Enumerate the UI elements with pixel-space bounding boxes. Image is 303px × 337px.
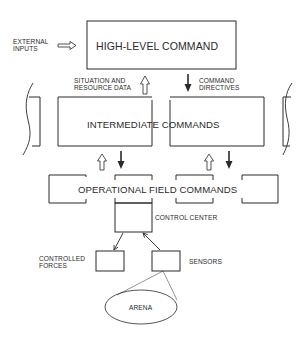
sensors-label: SENSORS: [189, 258, 222, 265]
command-directives-label: COMMAND DIRECTIVES: [199, 77, 240, 92]
external-inputs-line2: INPUTS: [13, 45, 49, 52]
command-directives-line1: COMMAND: [199, 77, 240, 84]
arena-label: ARENA: [129, 304, 152, 311]
situation-data-line2: RESOURCE DATA: [74, 84, 131, 91]
external-inputs-line1: EXTERNAL: [13, 38, 49, 45]
left-directive-down-arrow-icon: [118, 151, 125, 169]
right-directive-down-arrow-icon: [226, 151, 233, 169]
external-inputs-arrow-icon: [58, 42, 76, 50]
control-center-box: [115, 203, 152, 232]
command-directives-line2: DIRECTIVES: [199, 84, 240, 91]
command-hierarchy-diagram: EXTERNAL INPUTS HIGH-LEVEL COMMAND SITUA…: [0, 0, 303, 337]
control-to-forces-arrow: [114, 233, 123, 250]
situation-data-line1: SITUATION AND: [74, 77, 131, 84]
high-level-command-label: HIGH-LEVEL COMMAND: [96, 41, 218, 52]
sensors-to-control-arrow: [143, 233, 160, 250]
right-report-up-arrow-icon: [205, 154, 214, 170]
intermediate-right-truncated-box: [283, 83, 292, 155]
operational-box-4: [242, 175, 278, 203]
sensor-view-line-right: [163, 271, 177, 300]
controlled-forces-label: CONTROLLED FORCES: [39, 255, 85, 270]
controlled-forces-box: [96, 251, 124, 271]
external-inputs-label: EXTERNAL INPUTS: [13, 38, 49, 53]
command-directives-down-arrow-icon: [185, 74, 192, 92]
intermediate-commands-label: INTERMEDIATE COMMANDS: [87, 120, 220, 130]
control-center-label: CONTROL CENTER: [155, 214, 217, 221]
controlled-forces-line2: FORCES: [39, 262, 85, 269]
controlled-forces-line1: CONTROLLED: [39, 255, 85, 262]
situation-data-up-arrow-icon: [141, 76, 150, 94]
intermediate-left-truncated-box: [23, 83, 40, 155]
sensors-box: [152, 251, 180, 271]
operational-field-commands-label: OPERATIONAL FIELD COMMANDS: [78, 185, 237, 195]
situation-data-label: SITUATION AND RESOURCE DATA: [74, 77, 131, 92]
left-report-up-arrow-icon: [98, 154, 107, 170]
